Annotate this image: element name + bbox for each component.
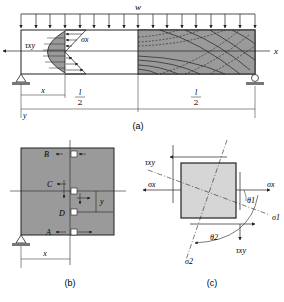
theta2-label: θ2: [210, 233, 218, 242]
caption-c: (c): [207, 278, 218, 288]
figure-b: B C D A y x (b): [10, 140, 126, 288]
label-a: A: [45, 228, 51, 237]
x-axis-label: x: [273, 46, 278, 56]
pin-support-b: [16, 235, 26, 243]
caption-a: (a): [133, 121, 144, 131]
stress-trajectory-region: [138, 30, 255, 74]
dim-x-label: x: [40, 86, 45, 95]
caption-b: (b): [65, 278, 76, 288]
label-d: D: [58, 209, 65, 218]
label-b: B: [44, 150, 49, 159]
distributed-load-arrows: [21, 14, 255, 28]
beam-stress-diagram: w τxy: [0, 0, 284, 302]
beam-segment: [21, 148, 114, 235]
sigma-label: σx: [81, 35, 89, 44]
half-span-left-den: 2: [77, 98, 82, 107]
theta1-label: θ1: [247, 196, 255, 205]
tau-top-label: τxy: [145, 158, 155, 167]
sigma1-label: σ1: [272, 213, 280, 222]
half-span-right-den: 2: [193, 98, 198, 107]
element-d: [71, 209, 77, 215]
roller-support: [252, 75, 259, 82]
sigma-left-label: σx: [148, 180, 156, 189]
tau-bottom-label: τxy: [236, 246, 246, 255]
figure-c: τxy σx σx θ1 σ1 θ2 τxy σ2 (c): [143, 140, 280, 288]
y-axis-label: y: [22, 111, 27, 120]
half-span-left-num: l: [79, 88, 82, 97]
load-label: w: [135, 2, 141, 12]
figure-a: w τxy: [3, 2, 278, 131]
dim-y-label: y: [99, 197, 104, 206]
dim-x-label-b: x: [42, 249, 47, 258]
sigma-right-label: σx: [267, 180, 275, 189]
element-a: [71, 229, 77, 235]
sigma2-label: σ2: [185, 257, 193, 266]
half-span-right-num: l: [195, 88, 198, 97]
element-c: [71, 188, 77, 194]
stress-element: [181, 163, 236, 218]
label-c: C: [47, 180, 53, 189]
element-b: [71, 151, 77, 157]
pin-support: [16, 74, 26, 82]
tau-label: τxy: [25, 41, 35, 50]
